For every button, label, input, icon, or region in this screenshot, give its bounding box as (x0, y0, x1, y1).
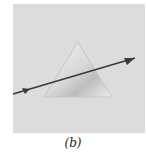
figure-caption: (b) (0, 136, 146, 150)
prism-diagram (0, 0, 146, 155)
arrowhead-icon (124, 58, 135, 65)
prism-triangle (44, 42, 112, 97)
